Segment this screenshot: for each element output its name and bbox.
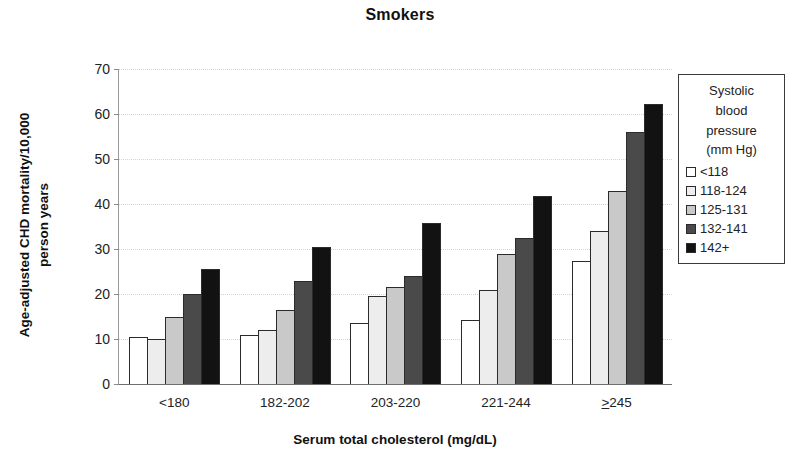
y-axis-title: Age-adjusted CHD mortality/10,000 person… <box>15 113 53 337</box>
legend-title-line-4: (mm Hg) <box>686 140 777 160</box>
bar <box>276 310 295 384</box>
legend: Systolicbloodpressure(mm Hg) <118118-124… <box>678 74 785 264</box>
legend-swatch-icon <box>686 167 696 177</box>
bar <box>533 196 552 384</box>
bar-group: 182-202 <box>230 69 341 384</box>
legend-item-label: 132-141 <box>700 221 748 236</box>
legend-item[interactable]: 118-124 <box>686 183 777 198</box>
bar <box>312 247 331 384</box>
chart-title: Smokers <box>0 6 800 24</box>
y-axis-tick-label: 10 <box>94 331 110 347</box>
bar <box>258 330 277 384</box>
bar-groups: <180182-202203-220221-244>245 <box>119 69 672 384</box>
bar <box>183 294 202 384</box>
legend-title-line-1: Systolic <box>686 81 777 101</box>
x-axis-category-label: 221-244 <box>451 395 562 410</box>
bar <box>240 335 259 385</box>
y-axis-tick-label: 20 <box>94 286 110 302</box>
bar <box>368 296 387 384</box>
bar <box>165 317 184 385</box>
bar <box>461 320 480 384</box>
bar <box>479 290 498 385</box>
bar <box>515 238 534 384</box>
bar-group: >245 <box>561 69 672 384</box>
bar <box>422 223 441 384</box>
y-axis-tick-label: 70 <box>94 61 110 77</box>
legend-title-line-3: pressure <box>686 121 777 141</box>
y-axis-tick-label: 0 <box>102 376 110 392</box>
y-axis-tick-label: 50 <box>94 151 110 167</box>
legend-swatch-icon <box>686 224 696 234</box>
legend-swatch-icon <box>686 243 696 253</box>
legend-item-label: 125-131 <box>700 202 748 217</box>
legend-item-label: 118-124 <box>700 183 747 198</box>
plot-area: 010203040506070 <180182-202203-220221-24… <box>118 69 672 385</box>
y-axis-tick <box>114 384 119 385</box>
legend-item[interactable]: 132-141 <box>686 221 777 236</box>
y-axis-title-wrap: Age-adjusted CHD mortality/10,000 person… <box>14 60 54 390</box>
x-axis-category-label: >245 <box>561 395 672 410</box>
legend-item[interactable]: 142+ <box>686 240 777 255</box>
y-axis-title-line-1: Age-adjusted CHD mortality/10,000 <box>17 113 32 337</box>
y-axis-tick-label: 30 <box>94 241 110 257</box>
bar <box>129 337 148 384</box>
y-axis-title-line-2: person years <box>36 183 51 267</box>
greater-equal-icon: > <box>601 395 609 410</box>
legend-item[interactable]: <118 <box>686 164 777 179</box>
bar <box>404 276 423 384</box>
x-axis-category-label: <180 <box>119 395 230 410</box>
bar <box>608 191 627 385</box>
bar <box>497 254 516 384</box>
x-axis-title: Serum total cholesterol (mg/dL) <box>118 432 672 447</box>
bar <box>201 269 220 384</box>
legend-swatch-icon <box>686 186 696 196</box>
bar-group: <180 <box>119 69 230 384</box>
legend-title: Systolicbloodpressure(mm Hg) <box>686 81 777 160</box>
bar <box>147 339 166 384</box>
bar-group: 221-244 <box>451 69 562 384</box>
legend-entries: <118118-124125-131132-141142+ <box>686 164 777 255</box>
bar <box>626 132 645 384</box>
legend-item-label: <118 <box>700 164 728 179</box>
bar <box>350 323 369 384</box>
x-axis-category-label: 182-202 <box>230 395 341 410</box>
chart-page: Smokers Age-adjusted CHD mortality/10,00… <box>0 0 800 476</box>
legend-title-line-2: blood <box>686 101 777 121</box>
legend-item[interactable]: 125-131 <box>686 202 777 217</box>
y-axis-tick-label: 60 <box>94 106 110 122</box>
bar <box>644 104 663 384</box>
legend-item-label: 142+ <box>700 240 729 255</box>
x-axis-category-label: 203-220 <box>340 395 451 410</box>
bar <box>572 261 591 384</box>
legend-swatch-icon <box>686 205 696 215</box>
bar <box>294 281 313 385</box>
bar <box>590 231 609 384</box>
y-axis-tick-label: 40 <box>94 196 110 212</box>
bar-group: 203-220 <box>340 69 451 384</box>
bar <box>386 287 405 384</box>
gridline <box>119 384 672 385</box>
